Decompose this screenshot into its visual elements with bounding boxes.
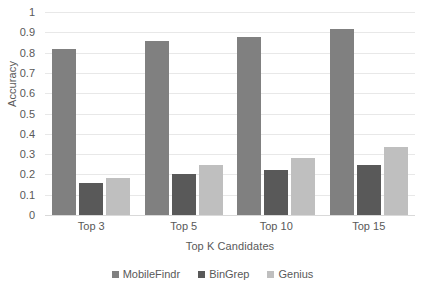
y-axis-tick-label: 0.6 (0, 88, 40, 99)
bar[interactable] (79, 183, 103, 215)
plot-area (45, 12, 415, 215)
y-axis-tick-label: 0.4 (0, 128, 40, 139)
x-axis-tick-label: Top 10 (230, 220, 323, 232)
y-axis-tick-labels: 00.10.20.30.40.50.60.70.80.91 (0, 12, 40, 215)
legend-item[interactable]: BinGrep (198, 268, 249, 280)
y-axis-tick-label: 0.2 (0, 169, 40, 180)
legend-swatch-icon (267, 271, 274, 278)
bar[interactable] (106, 178, 130, 215)
bar[interactable] (172, 174, 196, 215)
bar[interactable] (199, 165, 223, 215)
legend-item[interactable]: Genius (267, 268, 313, 280)
y-axis-tick-label: 0 (0, 210, 40, 221)
legend-label: MobileFindr (123, 268, 180, 280)
bar-group-bars (230, 12, 323, 215)
legend-swatch-icon (198, 271, 205, 278)
y-axis-tick-label: 0.5 (0, 108, 40, 119)
x-axis-tick-label: Top 3 (45, 220, 138, 232)
legend-label: BinGrep (209, 268, 249, 280)
y-axis-tick-label: 1 (0, 7, 40, 18)
bar-group (230, 12, 323, 215)
bar[interactable] (357, 165, 381, 215)
legend-item[interactable]: MobileFindr (112, 268, 180, 280)
bar-group-bars (45, 12, 138, 215)
bar-group (138, 12, 231, 215)
y-axis-tick-label: 0.7 (0, 67, 40, 78)
bar-group (323, 12, 416, 215)
x-axis-tick-labels: Top 3Top 5Top 10Top 15 (45, 220, 415, 232)
bar[interactable] (145, 41, 169, 215)
bar[interactable] (52, 49, 76, 215)
legend-label: Genius (278, 268, 313, 280)
bar-groups (45, 12, 415, 215)
bar[interactable] (384, 147, 408, 215)
bar-group (45, 12, 138, 215)
bar-group-bars (138, 12, 231, 215)
bar-group-bars (323, 12, 416, 215)
x-axis-tick-label: Top 15 (323, 220, 416, 232)
legend-swatch-icon (112, 271, 119, 278)
chart-legend: MobileFindrBinGrepGenius (0, 268, 425, 280)
gridline (45, 215, 415, 216)
bar[interactable] (291, 158, 315, 215)
y-axis-tick-label: 0.3 (0, 149, 40, 160)
bar[interactable] (330, 29, 354, 215)
y-axis-tick-label: 0.9 (0, 27, 40, 38)
y-axis-tick-label: 0.8 (0, 47, 40, 58)
bar[interactable] (237, 37, 261, 215)
bar-chart: Accuracy 00.10.20.30.40.50.60.70.80.91 T… (0, 0, 425, 290)
bar[interactable] (264, 170, 288, 215)
y-axis-tick-label: 0.1 (0, 189, 40, 200)
x-axis-title: Top K Candidates (45, 240, 415, 252)
x-axis-tick-label: Top 5 (138, 220, 231, 232)
